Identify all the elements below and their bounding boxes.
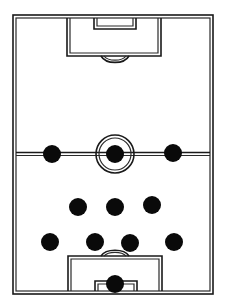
player-marker-midfielder bbox=[69, 198, 87, 216]
top-penalty-arc bbox=[101, 56, 129, 62]
player-marker-defender bbox=[86, 233, 104, 251]
player-marker-forward bbox=[106, 145, 124, 163]
bottom-penalty-arc bbox=[101, 250, 129, 256]
top-penalty-area bbox=[67, 18, 161, 56]
player-marker-midfielder bbox=[143, 196, 161, 214]
player-marker-forward bbox=[43, 145, 61, 163]
player-marker-defender bbox=[41, 233, 59, 251]
top-goal-area bbox=[94, 18, 136, 29]
player-marker-defender bbox=[165, 233, 183, 251]
player-marker-midfielder bbox=[106, 198, 124, 216]
player-marker-forward bbox=[164, 144, 182, 162]
player-marker-goalkeeper bbox=[106, 275, 124, 293]
football-pitch-diagram bbox=[0, 0, 227, 308]
player-marker-defender bbox=[121, 234, 139, 252]
